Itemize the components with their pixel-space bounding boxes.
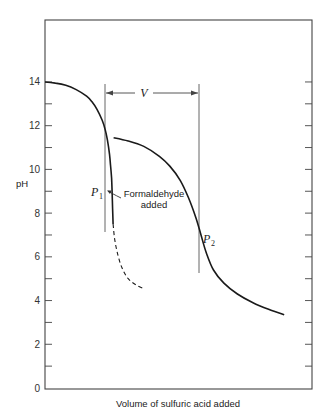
svg-text:P: P <box>90 185 99 199</box>
curve-dashed-continuation <box>113 224 144 288</box>
svg-text:1: 1 <box>99 192 103 201</box>
v-label: V <box>140 86 149 100</box>
v-dimension-arrow: V <box>106 86 198 100</box>
y-tick-label: 10 <box>29 164 41 175</box>
y-axis-ticks-left <box>45 82 52 366</box>
y-tick-label: 12 <box>29 120 41 131</box>
y-tick-label: 8 <box>34 208 40 219</box>
y-axis-tick-labels: 02468101214 <box>29 76 41 393</box>
arrow-left-icon <box>106 91 113 96</box>
y-tick-label: 14 <box>29 76 41 87</box>
y-tick-label: 0 <box>34 383 40 394</box>
p1-annotation: P 1 Formaldehyde added <box>90 185 184 210</box>
plot-frame <box>45 20 312 389</box>
curve-before-formaldehyde <box>45 82 113 224</box>
titration-chart: 02468101214 pH Volume of sulfuric acid a… <box>0 0 329 418</box>
y-axis-ticks-right <box>305 82 312 366</box>
y-tick-label: 4 <box>34 295 40 306</box>
p2-annotation: P 2 <box>202 232 215 248</box>
y-axis-label: pH <box>16 178 28 189</box>
svg-text:Formaldehyde: Formaldehyde <box>124 188 185 199</box>
svg-text:P: P <box>202 232 211 246</box>
arrow-right-icon <box>191 91 198 96</box>
x-axis-label: Volume of sulfuric acid added <box>116 398 240 409</box>
y-tick-label: 2 <box>34 339 40 350</box>
y-tick-label: 6 <box>34 251 40 262</box>
svg-text:added: added <box>141 199 167 210</box>
svg-text:2: 2 <box>211 239 215 248</box>
